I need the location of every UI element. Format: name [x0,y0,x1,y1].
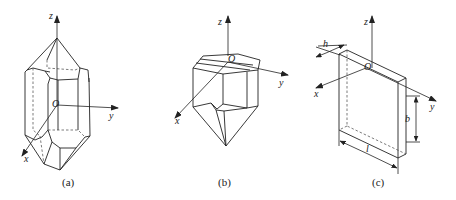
caption-a: (a) [62,176,75,189]
origin-label-c: O [364,61,371,72]
x-axis-b [175,62,228,118]
panel-c: h l b z y x O (c) [313,16,436,189]
dimension-l: l [339,130,398,174]
caption-b: (b) [218,176,231,189]
z-label-c: z [363,16,368,27]
h-label: h [323,38,328,49]
dimension-b: b [405,96,420,142]
panel-b: z y x O (b) [174,16,288,189]
panel-a: z y x O (a) [22,10,118,189]
z-label-a: z [48,10,53,21]
x-label-b: x [174,115,180,126]
origin-label-b: O [228,53,235,64]
b-label: b [405,113,410,124]
caption-c: (c) [372,176,385,189]
y-label-b: y [278,77,284,88]
y-label-a: y [108,110,114,121]
x-axis-a [22,105,57,156]
crystal-plate-c [339,50,406,158]
x-label-a: x [23,153,29,164]
y-axis-c [366,68,436,101]
y-axis-a [57,105,118,108]
y-label-c: y [429,101,435,112]
x-axis-c [316,68,366,88]
origin-label-a: O [52,98,59,109]
x-label-c: x [313,88,319,99]
crystal-diagram: z y x O (a) z y [0,0,456,200]
z-label-b: z [217,16,222,27]
dimension-h: h [316,38,347,57]
l-label: l [366,143,369,154]
quartz-crystal-b [193,54,260,146]
